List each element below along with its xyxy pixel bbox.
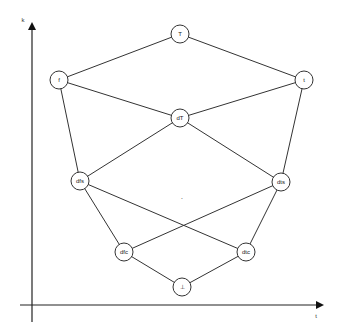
- edge-dfc-bottom: [124, 252, 182, 287]
- edge-f-dfs: [59, 80, 80, 181]
- node-label: dtc: [242, 249, 250, 255]
- edge-dts-dfc: [124, 182, 281, 252]
- node-t: t: [295, 71, 313, 89]
- node-label: ⊥: [180, 284, 185, 290]
- edge-dtc-bottom: [182, 252, 246, 287]
- node-dts: dts: [272, 173, 290, 191]
- lattice-diagram: k t · TftdTdfsdtsdfcdtc⊥: [0, 0, 341, 336]
- crossing-dot: ·: [181, 195, 183, 202]
- edge-T-t: [180, 34, 304, 80]
- edge-dT-dfs: [80, 118, 180, 181]
- node-dfc: dfc: [115, 243, 133, 261]
- node-label: dfs: [76, 178, 84, 184]
- edge-dT-dts: [180, 118, 281, 182]
- node-dtc: dtc: [237, 243, 255, 261]
- node-label: dfc: [120, 249, 128, 255]
- edge-dfs-dtc: [80, 181, 246, 252]
- y-axis-label: k: [22, 17, 26, 23]
- edge-t-dT: [180, 80, 304, 118]
- node-label: T: [178, 31, 182, 37]
- nodes: TftdTdfsdtsdfcdtc⊥: [50, 25, 313, 296]
- edge-f-dT: [59, 80, 180, 118]
- edge-dfs-dfc: [80, 181, 124, 252]
- node-label: dT: [176, 115, 183, 121]
- node-bottom: ⊥: [173, 278, 191, 296]
- node-dfs: dfs: [71, 172, 89, 190]
- x-axis-label: t: [315, 313, 317, 319]
- edge-T-f: [59, 34, 180, 80]
- edge-dts-dtc: [246, 182, 281, 252]
- node-dT: dT: [171, 109, 189, 127]
- edge-t-dts: [281, 80, 304, 182]
- node-f: f: [50, 71, 68, 89]
- edges: [59, 34, 304, 287]
- node-label: dts: [277, 179, 285, 185]
- node-T: T: [171, 25, 189, 43]
